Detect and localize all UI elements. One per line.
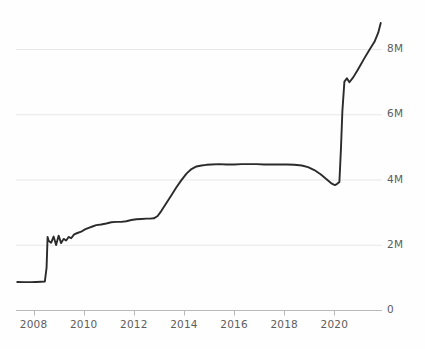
x-axis-tick-label: 2020: [321, 318, 349, 330]
chart-plot-area: [0, 0, 425, 349]
y-axis-tick-label: 4M: [387, 173, 403, 185]
y-axis-tick-label: 8M: [387, 42, 403, 54]
x-axis-tick-label: 2010: [70, 318, 98, 330]
y-axis-tick-label: 0: [387, 303, 394, 315]
y-axis-tick-label: 2M: [387, 238, 403, 250]
x-axis-tick-label: 2012: [120, 318, 148, 330]
x-tick-marks-group: [35, 311, 335, 316]
x-axis-tick-label: 2014: [170, 318, 198, 330]
data-series-line: [17, 23, 381, 282]
line-chart: 8M6M4M2M0 2008201020122014201620182020: [0, 0, 425, 349]
x-axis-tick-label: 2018: [270, 318, 298, 330]
y-axis-tick-label: 6M: [387, 107, 403, 119]
x-axis-tick-label: 2008: [20, 318, 48, 330]
x-axis-tick-label: 2016: [220, 318, 248, 330]
